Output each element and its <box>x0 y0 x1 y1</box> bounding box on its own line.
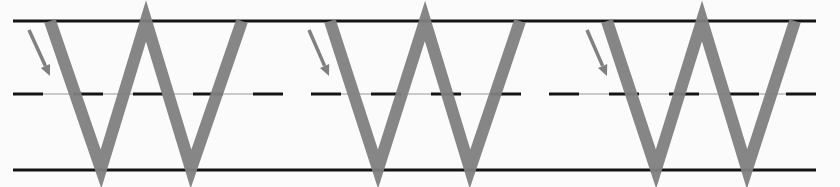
handwriting-worksheet <box>0 0 840 187</box>
stroke-direction-arrow-icon <box>309 30 329 76</box>
letter-w-stroke <box>330 21 520 169</box>
stroke-direction-arrow-icon <box>587 30 607 76</box>
letter-w-stroke <box>607 21 795 169</box>
stroke-direction-arrow-icon <box>29 30 50 76</box>
letter-w-tracing-canvas <box>0 0 840 187</box>
